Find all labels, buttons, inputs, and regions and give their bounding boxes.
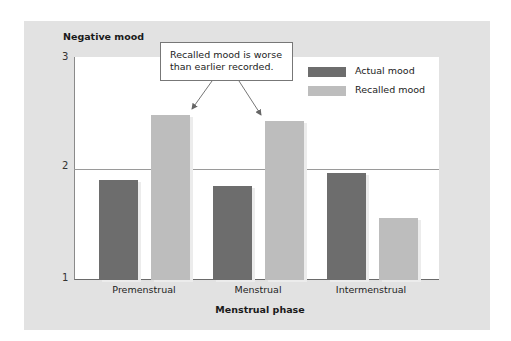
callout-annotation: Recalled mood is worse than earlier reco… — [160, 42, 293, 81]
callout-line-1: Recalled mood is worse — [170, 49, 292, 61]
callout-line-2: than earlier recorded. — [170, 61, 292, 73]
